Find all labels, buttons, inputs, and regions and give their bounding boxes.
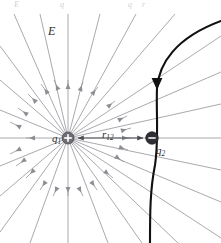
trajectory-arrowhead [152,78,163,90]
field-line-arrow [18,108,25,113]
field-line-arrow [10,150,18,154]
field-line-arrow [28,94,34,100]
field-line-arrow [80,190,83,196]
field-label-E: E [48,25,55,37]
field-line-arrow [124,128,131,130]
figure-root: E q q r [0,0,221,243]
field-line [0,80,68,138]
charge-q2 [146,132,158,144]
field-line [68,138,221,170]
field-line [68,104,221,138]
charge-q2-label: q2 [156,145,165,158]
field-line-arrow [93,184,97,190]
charge-q2-label-subscript: 2 [162,150,166,158]
separation-label: r12 [102,129,114,142]
field-line-arrow [16,161,23,166]
field-line-arrow [118,158,124,162]
trajectory-group [150,21,221,243]
charge-q1-label-subscript: 1 [58,138,62,146]
field-line-arrow [53,190,56,196]
electric-field-diagram [0,0,221,243]
field-line-arrow [110,101,115,105]
trajectory-curve [150,21,221,243]
field-line [68,36,221,138]
field-line [68,72,221,138]
field-line [68,14,136,138]
charge-q1 [62,132,74,144]
field-line-arrow [40,184,44,190]
separation-label-subscript: 12 [106,134,113,142]
field-line [68,138,108,243]
field-line-arrow [10,122,18,126]
field-line-arrow [121,116,127,119]
field-line [68,138,221,238]
charge-q1-label: q1 [52,133,61,146]
